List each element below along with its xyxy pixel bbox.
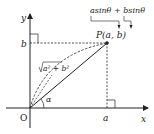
angle-arc	[41, 99, 44, 108]
x-axis-label: x	[141, 114, 146, 124]
b-label: b	[21, 39, 27, 49]
a-label: a	[103, 113, 108, 123]
point-label: P(a, b)	[95, 30, 126, 40]
point-P	[105, 41, 109, 45]
coordinate-diagram: y x O b a P(a, b) α asinθ + bsinθ a² + b…	[0, 0, 154, 134]
right-angle-mark-x	[107, 100, 115, 108]
expression-label: asinθ + bsinθ	[90, 6, 145, 15]
hypotenuse-label: a² + b²	[39, 62, 69, 73]
angle-label: α	[46, 95, 52, 104]
right-angle-mark-y	[30, 34, 38, 43]
expression-bracket-a	[91, 16, 119, 27]
svg-text:a² + b²: a² + b²	[43, 64, 69, 73]
origin-label: O	[20, 113, 27, 123]
segment-OP	[30, 43, 107, 108]
y-axis-label: y	[20, 13, 27, 23]
